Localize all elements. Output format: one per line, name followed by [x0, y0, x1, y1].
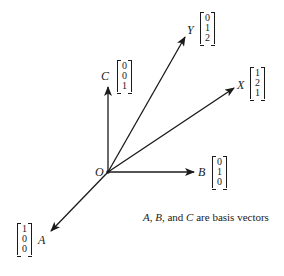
origin-point — [106, 170, 110, 174]
vector-b-components: 0 1 0 — [212, 156, 227, 188]
vector-y-component: 2 — [205, 33, 210, 43]
vector-c-components: 0 0 1 — [117, 60, 132, 92]
caption-a: A — [143, 211, 150, 223]
vector-y-arrow — [108, 37, 185, 172]
origin-label: O — [95, 166, 104, 178]
vector-a-components: 1 0 0 — [17, 223, 32, 255]
vector-c-label: C — [101, 70, 109, 82]
vector-b-label: B — [198, 166, 205, 178]
vector-x-component: 1 — [255, 88, 260, 98]
vector-c-component: 1 — [122, 81, 127, 91]
vector-x-label: X — [237, 79, 244, 91]
vector-y-components: 0 1 2 — [200, 12, 215, 44]
caption-b: B — [155, 211, 162, 223]
vector-a-component: 0 — [22, 244, 27, 254]
vector-y-label: Y — [187, 24, 194, 36]
vector-b-component: 0 — [217, 177, 222, 187]
diagram-caption: A, B, and C are basis vectors — [143, 211, 269, 223]
vector-a-label: A — [38, 234, 45, 246]
caption-sep2: , and — [162, 211, 186, 223]
caption-rest: are basis vectors — [193, 211, 268, 223]
vector-a-arrow — [51, 172, 108, 231]
vector-x-components: 1 2 1 — [250, 67, 265, 99]
